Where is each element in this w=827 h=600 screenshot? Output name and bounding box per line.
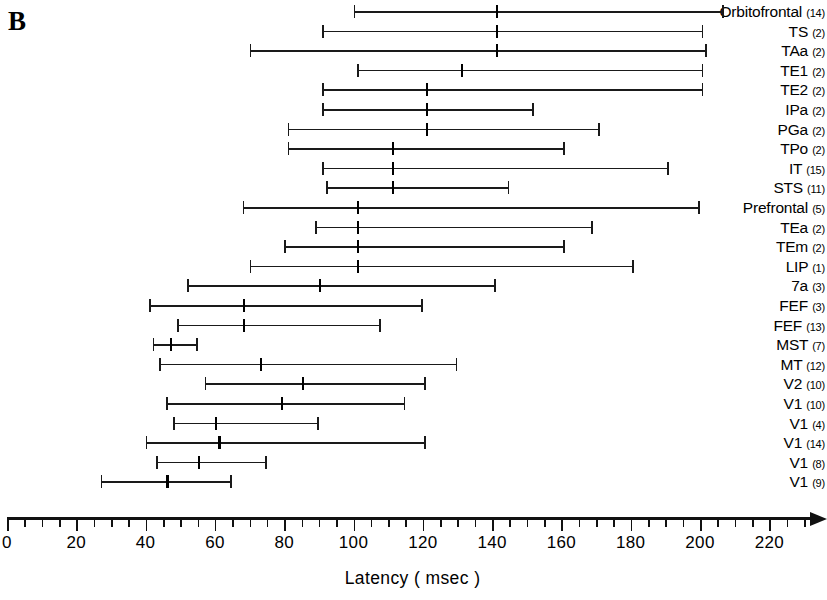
range-median-tick [243,299,245,312]
row-area-name: V1 [789,454,808,471]
chart-row: TE1 (2) [0,61,825,80]
row-area-name: STS [773,179,803,196]
row-sample-count: (10) [806,379,825,391]
x-axis-major-tick [631,520,633,531]
range-min-cap [288,123,290,136]
range-bar [354,2,725,21]
chart-row: V1 (14) [0,433,825,452]
range-max-cap [722,5,724,18]
chart-row: Prefrontal (5) [0,198,825,217]
range-bar [322,80,703,99]
range-line [250,266,635,268]
x-axis-tick-label: 180 [616,533,645,553]
x-axis-major-tick [284,520,286,531]
x-axis-major-tick [423,520,425,531]
x-axis-minor-tick [42,520,44,527]
x-axis-minor-tick [683,520,685,527]
range-median-tick [281,397,283,410]
chart-row: V2 (10) [0,374,825,393]
chart-row: Orbitofrontal (14) [0,2,825,21]
x-axis-minor-tick [596,520,598,527]
range-line [357,70,704,72]
x-axis-minor-tick [648,520,650,527]
range-bar [250,257,635,276]
chart-row: TEm (2) [0,237,825,256]
chart-row: TPo (2) [0,139,825,158]
range-median-tick [243,319,245,332]
range-min-cap [243,201,245,214]
range-min-cap [322,103,324,116]
x-axis-minor-tick [475,520,477,527]
range-max-cap [591,221,593,234]
x-axis-minor-tick [94,520,96,527]
range-bar [322,22,703,41]
x-axis-minor-tick [250,520,252,527]
x-axis-major-tick [7,520,9,531]
x-axis-minor-tick [509,520,511,527]
x-axis-tick-label: 20 [67,533,87,553]
row-sample-count: (3) [812,281,825,293]
x-axis-minor-tick [665,520,667,527]
range-min-cap [250,44,252,57]
x-axis: 020406080100120140160180200220 [0,517,825,531]
range-bar [101,472,233,491]
range-line [187,285,495,287]
chart-row: V1 (10) [0,394,825,413]
chart-row: V1 (4) [0,414,825,433]
range-min-cap [357,64,359,77]
range-bar [149,296,423,315]
range-bar [250,41,707,60]
x-axis-tick-label: 100 [339,533,368,553]
x-axis-minor-tick [198,520,200,527]
range-median-tick [392,162,394,175]
range-max-cap [705,44,707,57]
row-area-name: MST [776,336,808,353]
range-min-cap [159,358,161,371]
range-max-cap [508,181,510,194]
row-sample-count: (3) [812,301,825,313]
row-sample-count: (14) [806,7,825,19]
x-axis-minor-tick [579,520,581,527]
x-axis-minor-tick [232,520,234,527]
range-min-cap [322,25,324,38]
row-area-name: Orbitofrontal [719,3,802,20]
range-bar [166,394,405,413]
range-min-cap [177,319,179,332]
range-line [326,187,510,189]
row-label: FEF (13) [658,316,825,337]
range-max-cap [456,358,458,371]
chart-row: TS (2) [0,22,825,41]
x-axis-major-tick [354,520,356,531]
row-label: FEF (3) [686,296,825,317]
x-axis-minor-tick [405,520,407,527]
row-area-name: TAa [781,42,808,59]
range-max-cap [424,377,426,390]
row-area-name: TE2 [780,81,808,98]
range-max-cap [404,397,406,410]
range-line [153,344,198,346]
range-bar [357,61,704,80]
row-area-name: MT [780,356,802,373]
x-axis-minor-tick [787,520,789,527]
range-line [177,325,381,327]
range-line [250,50,707,52]
row-sample-count: (5) [812,203,825,215]
range-min-cap [205,377,207,390]
range-max-cap [265,456,267,469]
row-area-name: V1 [789,415,808,432]
chart-row: TE2 (2) [0,80,825,99]
row-label: TPo (2) [547,139,825,160]
x-axis-major-tick [561,520,563,531]
row-label: V1 (10) [669,394,825,415]
range-line [166,403,405,405]
x-axis-tick-label: 120 [408,533,437,553]
row-area-name: 7a [791,277,808,294]
x-axis-minor-tick [440,520,442,527]
range-median-tick [218,436,220,449]
range-median-tick [357,221,359,234]
row-area-name: V1 [789,473,808,490]
range-median-tick [215,417,217,430]
row-area-name: V2 [784,375,803,392]
chart-row: IT (15) [0,159,825,178]
